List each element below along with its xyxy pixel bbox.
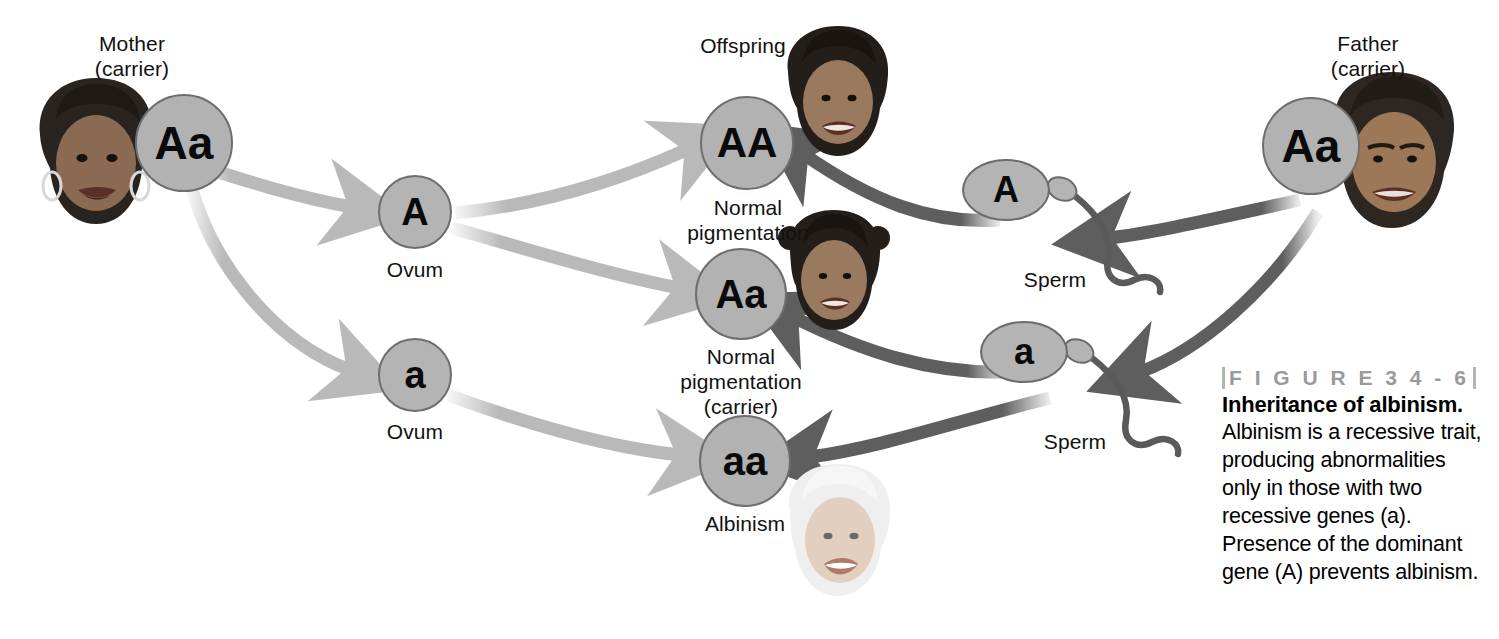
caption-rule-left	[1222, 367, 1225, 389]
offspring-genotype-circle-aa-dominant: AA	[700, 96, 794, 190]
offspring-phenotype-normal-pigmentation: Normal pigmentation	[672, 196, 824, 246]
figure-caption: F I G U R E 3 4 - 6 Inheritance of albin…	[1222, 366, 1484, 587]
arrow-mother-to-ovum-a-recessive	[188, 172, 350, 370]
arrow-father-to-sperm-a-recessive	[1140, 212, 1318, 372]
sperm-circle-a-recessive: a	[980, 321, 1068, 383]
ovum-circle-a-recessive: a	[378, 338, 452, 412]
sperm-label-lower: Sperm	[1020, 430, 1130, 455]
offspring-genotype-circle-heterozygote: Aa	[695, 248, 787, 340]
arrow-ovum-a-to-offspring-heterozygote	[452, 228, 679, 288]
albinism-inheritance-figure: Mother (carrier) Aa Father (carrier) Aa …	[0, 0, 1499, 639]
father-label: Father (carrier)	[1288, 32, 1448, 82]
ovum-circle-a-dominant: A	[378, 175, 452, 249]
arrow-sperm-a-recessive-to-offspring-heterozygote	[795, 318, 1010, 372]
offspring-phenotype-albinism: Albinism	[669, 512, 821, 537]
mother-label: Mother (carrier)	[52, 32, 212, 82]
offspring-heading: Offspring	[683, 34, 803, 59]
ovum-label-lower: Ovum	[355, 420, 475, 445]
offspring-phenotype-carrier: Normal pigmentation (carrier)	[665, 345, 817, 419]
ovum-label-upper: Ovum	[355, 258, 475, 283]
sperm-circle-a-dominant: A	[962, 159, 1050, 221]
figure-caption-body: Albinism is a recessive trait, producing…	[1222, 419, 1484, 587]
father-genotype-circle: Aa	[1262, 97, 1360, 195]
arrow-ovum-a-to-offspring-aa-dominant	[455, 149, 688, 213]
figure-caption-title: Inheritance of albinism.	[1222, 392, 1484, 418]
arrow-father-to-sperm-a-dominant	[1108, 200, 1300, 238]
offspring-genotype-circle-aa-recessive: aa	[699, 415, 791, 507]
sperm-label-upper: Sperm	[1000, 268, 1110, 293]
caption-rule-right	[1473, 367, 1476, 389]
mother-genotype-circle: Aa	[135, 94, 233, 192]
arrow-sperm-a-recessive-to-offspring-aa	[810, 398, 1050, 457]
figure-number: F I G U R E 3 4 - 6	[1229, 366, 1469, 390]
arrow-ovum-a-recessive-to-offspring-aa	[448, 395, 680, 455]
